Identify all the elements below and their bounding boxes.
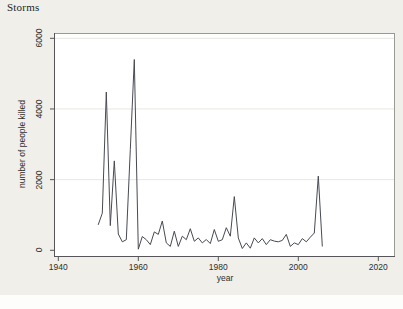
- y-tick-label-4000: 4000: [34, 99, 44, 118]
- y-axis-title: number of people killed: [17, 100, 27, 188]
- x-tick-label-1940: 1940: [49, 262, 68, 272]
- x-tick-label-1980: 1980: [209, 262, 228, 272]
- x-tick-label-2000: 2000: [289, 262, 308, 272]
- plot-background: [55, 34, 395, 257]
- y-tick-label-0: 0: [34, 248, 44, 253]
- y-tick-label-2000: 2000: [34, 170, 44, 189]
- y-tick-label-6000: 6000: [34, 29, 44, 48]
- x-axis-title: year: [217, 273, 234, 283]
- x-tick-label-1960: 1960: [129, 262, 148, 272]
- graph-canvas: Storms number of people killed year 0200…: [0, 0, 403, 295]
- x-tick-label-2020: 2020: [369, 262, 388, 272]
- page: Storms number of people killed year 0200…: [0, 0, 403, 309]
- plot-area: [0, 0, 403, 295]
